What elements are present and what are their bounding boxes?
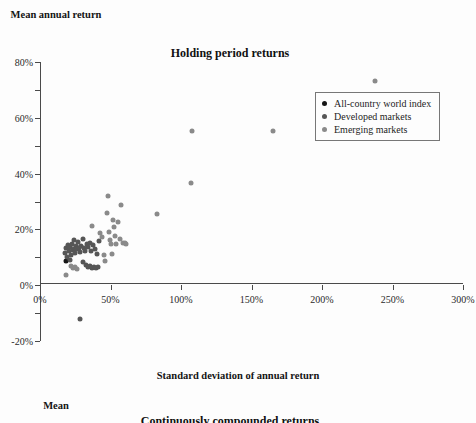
data-point [89,223,94,228]
data-point [189,128,194,133]
x-tick [322,285,323,290]
data-point [109,251,114,256]
data-point [63,273,68,278]
y-tick [35,229,40,230]
chart-legend: All-country world indexDeveloped markets… [315,92,440,141]
y-tick [35,174,40,175]
x-tick [111,285,112,290]
legend-item: Emerging markets [322,123,431,136]
y-tick-label: 40% [15,168,33,179]
x-tick-label: 50% [101,294,119,305]
legend-item-label: Developed markets [334,111,411,122]
data-point [96,265,101,270]
x-tick [181,285,182,290]
y-tick [35,62,40,63]
data-point [119,203,124,208]
x-tick-label: 0% [33,294,46,305]
y-minor-tick [35,313,40,314]
data-point [372,78,377,83]
y-tick [35,341,40,342]
data-point [115,220,120,225]
data-point [108,241,113,246]
y-tick-label: 80% [15,57,33,68]
data-point [80,237,85,242]
x-tick [393,285,394,290]
next-figure-y-axis-title: Mean [0,400,112,411]
legend-item-label: Emerging markets [334,124,407,135]
y-tick-label: -20% [11,336,33,347]
y-minor-tick [35,90,40,91]
data-point [78,316,83,321]
legend-marker-icon [322,114,327,119]
y-tick [35,118,40,119]
data-point [104,211,109,216]
x-tick-label: 250% [381,294,404,305]
data-point [124,241,129,246]
x-axis-line [40,283,463,284]
x-tick-label: 300% [451,294,474,305]
legend-item-label: All-country world index [334,98,431,109]
y-tick-label: 20% [15,224,33,235]
y-minor-tick [35,146,40,147]
y-tick-label: 60% [15,112,33,123]
data-point [67,257,72,262]
data-point [100,234,105,239]
x-axis-title: Standard deviation of annual return [0,370,476,381]
x-tick [252,285,253,290]
data-point [112,224,117,229]
chart-title: Holding period returns [40,46,420,61]
data-point [114,242,119,247]
data-point [102,252,107,257]
y-minor-tick [35,257,40,258]
figure-page: Mean annual return Holding period return… [0,0,476,423]
legend-marker-icon [322,101,327,106]
legend-marker-icon [322,127,327,132]
data-point [75,266,80,271]
data-point [94,251,99,256]
y-tick-label: 0% [20,280,33,291]
data-point [270,129,275,134]
legend-item: All-country world index [322,97,431,110]
x-tick-label: 200% [310,294,333,305]
legend-item: Developed markets [322,110,431,123]
y-minor-tick [35,202,40,203]
data-point [188,181,193,186]
x-tick-label: 150% [240,294,263,305]
x-tick-label: 100% [169,294,192,305]
data-point [106,229,111,234]
data-point [102,258,107,263]
data-point [105,194,110,199]
data-point [96,239,101,244]
data-point [155,212,160,217]
x-tick [463,285,464,290]
y-axis-title: Mean annual return [0,8,112,21]
x-tick [40,285,41,290]
next-figure-title: Continuously compounded returns [40,414,420,423]
